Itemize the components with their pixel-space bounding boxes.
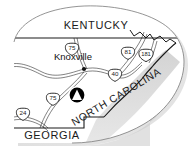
map-canvas: KENTUCKY NORTH CAROLINA GEORGIA Knoxvill… xyxy=(0,0,192,147)
state-label-georgia: GEORGIA xyxy=(24,129,80,141)
shield-label: 75 xyxy=(50,94,57,101)
shield-label: 75 xyxy=(69,44,76,51)
locator-map: KENTUCKY NORTH CAROLINA GEORGIA Knoxvill… xyxy=(0,0,192,147)
shield-label: 81 xyxy=(125,48,132,55)
shield-label: 24 xyxy=(20,109,27,116)
state-label-kentucky: KENTUCKY xyxy=(64,19,129,31)
triangle-in-circle-icon xyxy=(69,87,85,103)
shield-label: 181 xyxy=(141,51,151,57)
city-dot-knoxville xyxy=(82,67,86,71)
shield-label: 40 xyxy=(112,70,119,77)
